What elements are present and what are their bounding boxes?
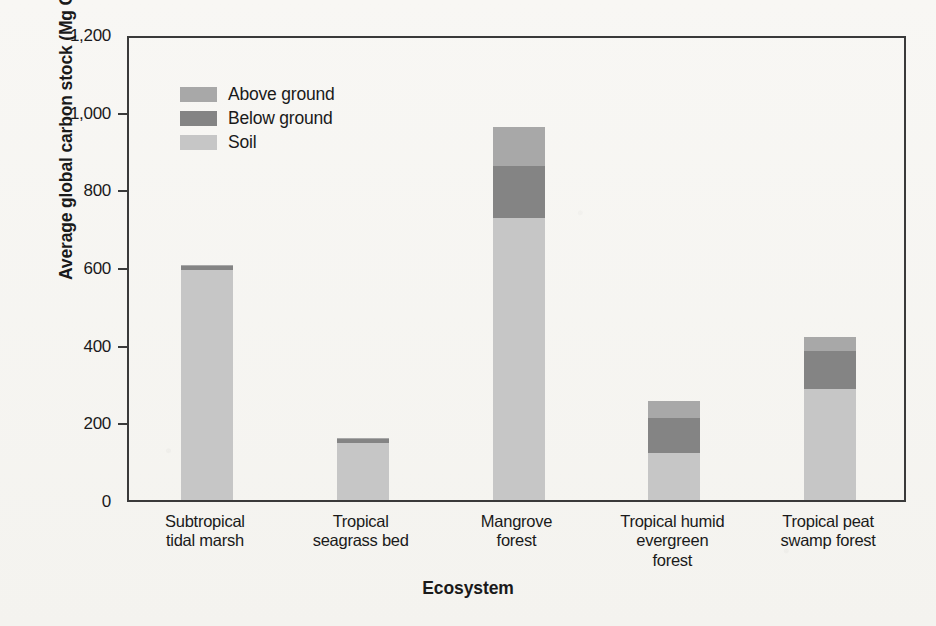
bar-3 (493, 127, 545, 500)
legend-label-soil: Soil (228, 132, 256, 153)
y-tick-label: 200 (0, 414, 111, 434)
legend-swatch-below-ground (180, 111, 217, 126)
y-tick-mark (118, 268, 127, 270)
bar-segment-above-ground (804, 337, 856, 351)
legend-swatch-soil (180, 135, 217, 150)
x-tick-label-line: swamp forest (733, 531, 923, 550)
bar-2 (337, 438, 389, 500)
bar-segment-soil (804, 389, 856, 500)
bar-segment-below-ground (648, 418, 700, 454)
y-tick-mark (118, 346, 127, 348)
y-tick-mark (118, 423, 127, 425)
y-tick-mark (118, 190, 127, 192)
bar-segment-soil (648, 453, 700, 500)
x-tick-label-line: Tropical peat (733, 512, 923, 531)
y-tick-mark (118, 113, 127, 115)
x-tick-label-line: forest (577, 551, 767, 570)
y-tick-label: 600 (0, 259, 111, 279)
bar-segment-soil (181, 270, 233, 500)
bar-segment-soil (337, 443, 389, 500)
bar-segment-below-ground (804, 351, 856, 390)
y-tick-label: 0 (0, 492, 111, 512)
legend-label-above-ground: Above ground (228, 84, 335, 105)
bar-1 (181, 265, 233, 500)
legend-item: Soil (180, 133, 335, 152)
bar-segment-above-ground (648, 401, 700, 418)
legend-label-below-ground: Below ground (228, 108, 333, 129)
legend: Above ground Below ground Soil (180, 85, 335, 152)
bar-5 (804, 337, 856, 500)
y-tick-label: 800 (0, 181, 111, 201)
x-tick-label-5: Tropical peatswamp forest (733, 512, 923, 551)
x-axis-label: Ecosystem (0, 578, 936, 599)
y-tick-label: 400 (0, 337, 111, 357)
y-tick-label: 1,000 (0, 104, 111, 124)
bar-4 (648, 401, 700, 500)
legend-item: Above ground (180, 85, 335, 104)
bar-segment-soil (493, 218, 545, 500)
y-tick-label: 1,200 (0, 26, 111, 46)
bar-segment-above-ground (493, 127, 545, 166)
bar-segment-below-ground (493, 166, 545, 218)
legend-item: Below ground (180, 109, 335, 128)
plot-area: Above ground Below ground Soil (127, 36, 906, 502)
legend-swatch-above-ground (180, 87, 217, 102)
